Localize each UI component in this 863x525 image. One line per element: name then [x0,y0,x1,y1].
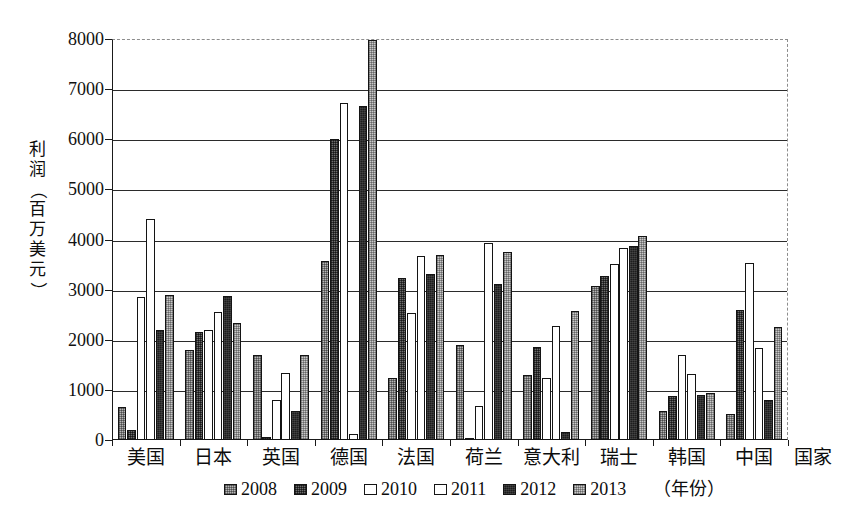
y-axis-tick-label: 6000 [34,130,104,148]
bar [503,252,512,440]
y-axis-tick-label: 2000 [34,331,104,349]
bar [214,312,223,440]
bar [638,236,647,440]
y-axis-tick-mark [105,440,112,441]
bar-group [450,39,518,440]
x-axis-category-label: 日本 [180,446,248,470]
bar [195,332,204,440]
y-axis-tick-mark [105,89,112,90]
bar [388,378,397,440]
bar [561,432,570,440]
x-axis-category-label: 荷兰 [450,446,518,470]
bar [291,411,300,440]
bar [156,330,165,440]
legend-item-2009[interactable]: 2009 [294,478,347,500]
bar [678,355,687,440]
bar [436,255,445,440]
bar [281,373,290,440]
bar [417,256,426,440]
bar [223,296,232,440]
x-axis-tick-mark [788,440,789,446]
x-axis-category-label: 美国 [112,446,180,470]
legend-label: 2008 [241,478,277,500]
y-axis-tick-mark [105,189,112,190]
x-axis-category-label: 德国 [315,446,383,470]
x-axis-category-label: 意大利 [518,446,586,470]
legend-item-2010[interactable]: 2010 [364,478,417,500]
bar [426,274,435,440]
bar [687,374,696,440]
bar [774,327,783,440]
bar [253,355,262,440]
bar-group [653,39,721,440]
bar [697,395,706,440]
legend-item-2012[interactable]: 2012 [503,478,556,500]
bar [706,393,715,440]
legend-label: 2011 [451,478,486,500]
legend-suffix-label: （年份） [653,478,725,500]
y-axis-tick-mark [105,39,112,40]
bar [600,276,609,440]
bar [127,430,136,440]
bar [398,278,407,440]
bar [368,40,377,440]
bar [533,347,542,440]
legend-swatch-icon [224,484,237,495]
legend-item-2011[interactable]: 2011 [434,478,486,500]
legend-label: 2010 [381,478,417,500]
bar [745,263,754,440]
legend-item-2008[interactable]: 2008 [224,478,277,500]
y-axis-title: 利润（百万美元） [22,140,52,300]
bar-group [518,39,586,440]
bar [146,219,155,440]
bar [523,375,532,440]
bar [465,438,474,440]
legend-swatch-icon [364,484,377,495]
bar [262,437,271,440]
bar [484,243,493,440]
bar [185,350,194,440]
bar [321,261,330,440]
bar [755,348,764,440]
bar-chart: 利润（百万美元） 8000700060005000400030002000100… [0,0,863,525]
legend-item-2013[interactable]: 2013 [573,478,626,500]
y-axis-tick-mark [105,390,112,391]
bar [137,297,146,440]
x-axis-category-label: 英国 [247,446,315,470]
legend-swatch-icon [294,484,307,495]
legend-swatch-icon [434,484,447,495]
x-axis-category-label: 瑞士 [585,446,653,470]
legend-label: 2012 [520,478,556,500]
y-axis-tick-mark [105,290,112,291]
bar [359,106,368,440]
y-axis-tick-label: 3000 [34,281,104,299]
y-axis-tick-label: 0 [34,431,104,449]
bar [407,313,416,440]
y-axis-tick-label: 4000 [34,231,104,249]
bar [204,330,213,440]
bar [542,378,551,440]
bar [456,345,465,440]
bars-layer [112,39,788,440]
y-axis-tick-mark [105,240,112,241]
bar-group [585,39,653,440]
bar [552,326,561,440]
bar [118,407,127,440]
bar [591,286,600,440]
bar [668,396,677,440]
bar-group [180,39,248,440]
bar [300,355,309,440]
legend-swatch-icon [503,484,516,495]
x-axis-category-label: 中国 [720,446,788,470]
bar [726,414,735,440]
bar [736,310,745,440]
bar [619,248,628,440]
bar [610,264,619,440]
bar [475,406,484,440]
bar [340,103,349,440]
bar [659,411,668,440]
bar [629,246,638,440]
x-axis-category-label: 韩国 [653,446,721,470]
legend: 200820092010201120122013（年份） [224,478,725,500]
x-axis-title: 国家 [794,446,832,470]
